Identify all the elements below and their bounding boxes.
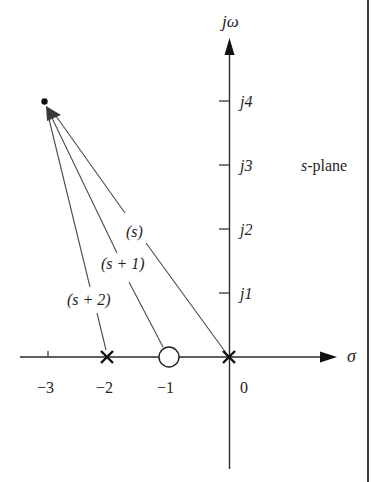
vector-label-s-plus-2: (s + 2) [67,291,111,309]
imag-tick-label-1: j1 [238,285,252,303]
real-axis-arrow-icon [320,352,337,363]
imag-ticks [219,101,230,293]
zero-marker-minus-1-icon [159,347,179,367]
vector-arrowhead-icon [46,106,61,121]
s-plane-label-suffix: -plane [307,157,347,175]
imaginary-axis [225,38,235,469]
real-tick-label-minus-2: −2 [96,379,113,396]
frame-border-right [367,0,369,482]
test-point-dot-icon [41,98,47,104]
imag-tick-label-3: j3 [238,157,252,175]
imaginary-axis-label: jω [220,12,239,31]
vector-s-plus-1 [52,118,163,347]
real-axis-label: σ [347,346,357,366]
imag-tick-label-4: j4 [238,93,252,111]
imag-tick-label-2: j2 [238,221,252,239]
s-plane-diagram: (s) (s + 1) (s + 2) j4 j3 j2 j1 −3 −2 −1… [0,0,372,482]
imaginary-axis-arrow-icon [225,38,235,55]
real-tick-label-0: 0 [240,379,248,396]
real-tick-label-minus-3: −3 [37,379,54,396]
s-plane-label: s-plane [301,157,347,175]
vector-label-s-plus-1: (s + 1) [101,255,145,273]
real-tick-label-minus-1: −1 [157,379,174,396]
vector-s-plus-2 [49,119,106,350]
vector-label-s: (s) [126,223,143,241]
